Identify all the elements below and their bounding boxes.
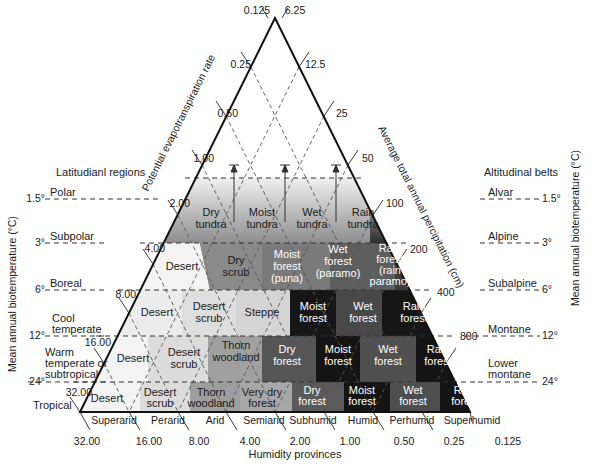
zone-wet-forest-paramo: Wet <box>328 243 347 255</box>
svg-text:forest: forest <box>273 260 301 272</box>
alt-belt-montane: Montane <box>488 323 531 335</box>
altitudinal-header: Altitudinal belts <box>484 166 558 178</box>
right-tick-top: 6.25 <box>285 4 306 16</box>
svg-text:forest: forest <box>451 395 479 407</box>
lat-region-subpolar: Subpolar <box>50 230 94 242</box>
zone-wet-tundra: Wet <box>302 206 321 218</box>
zone-dry-tundra: Dry <box>202 206 220 218</box>
svg-text:forest: forest <box>324 255 352 267</box>
bottom-tick: 32.00 <box>74 435 100 447</box>
zone-dry-scrub: Dry <box>227 254 245 266</box>
province-label: Perhumid <box>390 414 435 426</box>
zone-wet-forest: Wet <box>378 343 397 355</box>
svg-text:tundra: tundra <box>296 218 328 230</box>
svg-text:woodland: woodland <box>186 397 234 409</box>
right-tick: 25 <box>336 107 348 119</box>
bottom-tick: 16.00 <box>136 435 162 447</box>
alt-temp: 3° <box>542 236 552 248</box>
province-label: Humid <box>348 414 379 426</box>
svg-text:forest: forest <box>374 355 402 367</box>
svg-text:(paramo): (paramo) <box>316 267 361 279</box>
lat-temp: 24° <box>29 375 45 387</box>
left-tick: 16.00 <box>85 336 111 348</box>
zone-thorn-woodland: Thorn <box>222 339 251 351</box>
bottom-tick: 1.00 <box>340 435 361 447</box>
svg-text:forest: forest <box>399 395 427 407</box>
svg-text:forest: forest <box>248 397 276 409</box>
svg-text:forest: forest <box>348 395 376 407</box>
svg-text:tundra: tundra <box>246 218 278 230</box>
province-label: Arid <box>206 414 225 426</box>
svg-text:scrub: scrub <box>171 358 198 370</box>
bottom-tick: 0.125 <box>495 435 521 447</box>
svg-text:paramo): paramo) <box>370 275 411 287</box>
lat-region-warm: subtropical <box>45 368 98 380</box>
province-label: Superarid <box>91 414 137 426</box>
latitudinal-header: Latitudianl regions <box>56 166 146 178</box>
left-tick: 4.00 <box>145 242 166 254</box>
svg-text:forest: forest <box>273 355 301 367</box>
svg-text:woodland: woodland <box>211 351 259 363</box>
zone-desert: Desert <box>91 392 123 404</box>
right-tick: 100 <box>386 197 404 209</box>
alt-belt-alvar: Alvar <box>488 186 513 198</box>
left-tick-top: 0.125 <box>244 4 270 16</box>
bottom-tick: 8.00 <box>189 435 210 447</box>
zone-rain-forest: Rain <box>403 300 426 312</box>
province-label: Subhumid <box>289 414 336 426</box>
svg-text:forest: forest <box>299 312 327 324</box>
svg-text:forest: forest <box>324 355 352 367</box>
alt-temp: 24° <box>542 375 558 387</box>
zone-desert: Desert <box>166 260 198 272</box>
bottom-tick: 2.00 <box>290 435 311 447</box>
svg-text:scrub: scrub <box>223 266 250 278</box>
svg-text:forest: forest <box>400 312 428 324</box>
zone-moist-forest-puna: Moist <box>274 248 300 260</box>
zone-desert-scrub: Desert <box>168 346 200 358</box>
svg-text:scrub: scrub <box>147 397 174 409</box>
life-zone-triangle-diagram: 0.125 6.25 0.25 0.50 1.00 2.00 4.00 8.00… <box>0 0 589 466</box>
province-label: Superhumid <box>444 414 501 426</box>
zone-moist-tundra: Moist <box>249 206 275 218</box>
left-tick: 0.25 <box>231 58 252 70</box>
svg-text:forest: forest <box>298 395 326 407</box>
svg-text:(puna): (puna) <box>271 272 303 284</box>
right-tick: 200 <box>410 243 428 255</box>
lat-temp: 12° <box>29 329 45 341</box>
right-tick: 12.5 <box>305 58 326 70</box>
bottom-tick: 0.25 <box>444 435 465 447</box>
lat-region-cool: temperate <box>52 323 102 335</box>
zone-wet-forest: Wet <box>353 300 372 312</box>
lat-region-boreal: Boreal <box>50 277 82 289</box>
bottom-tick: 0.50 <box>394 435 415 447</box>
zone-rain-tundra: Rain <box>352 206 375 218</box>
left-tick: 8.00 <box>116 288 137 300</box>
right-tick: 800 <box>460 330 478 342</box>
bottom-axis-title: Humidity provinces <box>249 448 342 460</box>
zone-desert: Desert <box>141 306 173 318</box>
lat-temp: 1.5° <box>26 192 45 204</box>
left-tick: 32.00 <box>66 386 92 398</box>
lat-region-polar: Polar <box>50 186 76 198</box>
zone-moist-forest: Moist <box>325 343 351 355</box>
zone-moist-forest: Moist <box>300 300 326 312</box>
svg-text:forest: forest <box>424 355 452 367</box>
lat-region-tropical: Tropical <box>33 399 72 411</box>
right-vertical-axis-label: Mean annual biotemperature (°C) <box>569 150 581 306</box>
lat-temp: 3° <box>35 236 45 248</box>
svg-text:forest: forest <box>349 312 377 324</box>
left-vertical-axis-label: Mean annual biotemperature (°C) <box>6 216 18 372</box>
zone-desert-scrub: Desert <box>193 300 225 312</box>
zone-steppe: Steppe <box>245 306 280 318</box>
lat-temp: 6° <box>35 283 45 295</box>
left-tick: 1.00 <box>194 152 215 164</box>
zone-rain-forest: Rain <box>427 343 450 355</box>
zone-dry-forest: Dry <box>278 343 296 355</box>
alt-belt-lower-montane: montane <box>488 368 531 380</box>
province-label: Perarid <box>151 414 185 426</box>
alt-temp: 6° <box>542 283 552 295</box>
alt-temp: 1.5° <box>542 192 561 204</box>
left-tick: 0.50 <box>218 107 239 119</box>
svg-text:tundra: tundra <box>195 218 227 230</box>
left-tick: 2.00 <box>170 197 191 209</box>
